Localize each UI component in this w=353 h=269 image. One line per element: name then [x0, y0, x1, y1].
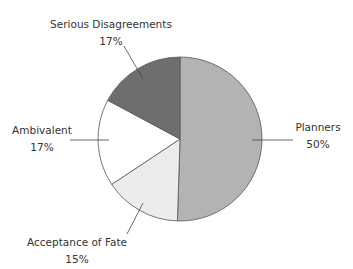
value-ambivalent: 17% [30, 141, 53, 153]
label-planners: Planners [295, 121, 340, 133]
label-serious-disagreements: Serious Disagreements [50, 18, 172, 30]
pie-chart: Planners 50% Acceptance of Fate 15% Ambi… [0, 0, 353, 269]
pie-slice-planners [177, 57, 262, 221]
label-ambivalent: Ambivalent [12, 124, 72, 136]
value-acceptance-of-fate: 15% [65, 253, 88, 265]
label-acceptance-of-fate: Acceptance of Fate [27, 236, 127, 248]
value-planners: 50% [306, 138, 329, 150]
value-serious-disagreements: 17% [99, 35, 122, 47]
